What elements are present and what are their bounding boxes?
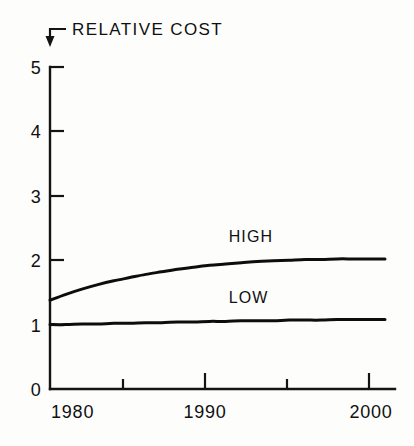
y-axis-label-3: 3: [31, 187, 42, 207]
series-label-high: HIGH: [229, 228, 273, 245]
y-axis-label-5: 5: [31, 58, 42, 78]
y-axis-label-4: 4: [31, 122, 42, 142]
chart-title: RELATIVE COST: [72, 20, 223, 39]
title-leader-arrow-icon: [46, 36, 55, 47]
x-axis-label-1980: 1980: [51, 402, 94, 422]
y-axis-label-1: 1: [31, 316, 42, 336]
y-axis-label-0: 0: [31, 380, 42, 400]
series-line-low: [50, 319, 385, 324]
x-axis-label-2000: 2000: [349, 402, 392, 422]
series-label-low: LOW: [229, 289, 269, 306]
relative-cost-line-chart: RELATIVE COST 5 4 3 2 1 0 1980 1990 2000…: [0, 0, 414, 446]
y-axis-label-2: 2: [31, 251, 42, 271]
series-line-high: [50, 259, 385, 300]
chart-figure: RELATIVE COST 5 4 3 2 1 0 1980 1990 2000…: [0, 0, 414, 446]
x-axis-label-1990: 1990: [183, 402, 226, 422]
